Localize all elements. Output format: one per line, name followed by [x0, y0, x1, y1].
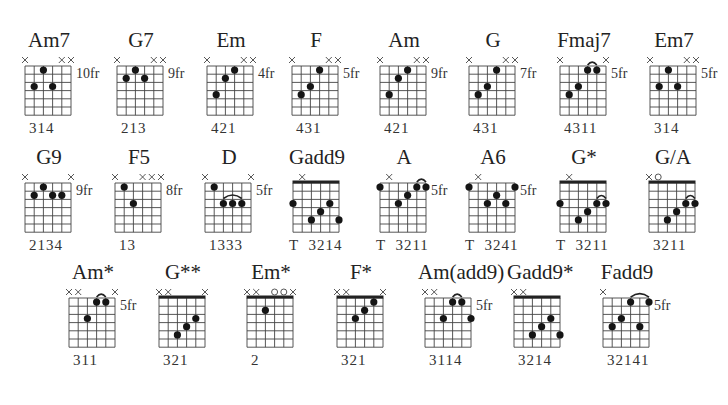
fingering-label: 314 [29, 120, 55, 136]
finger-dot-icon [674, 83, 681, 90]
barre-arc-icon [417, 179, 426, 182]
fingering-label: 213 [121, 120, 147, 136]
fingering-label: 1333 [209, 237, 243, 253]
finger-dot-icon [211, 184, 218, 191]
fretboard-grid [240, 288, 310, 358]
mute-x-icon [165, 289, 171, 295]
nut-bar [293, 181, 340, 184]
finger-dot-icon [664, 216, 671, 223]
finger-dot-icon [404, 192, 411, 199]
chord-name: G7 [110, 28, 172, 52]
chord-diagram: F58fr13 [108, 145, 198, 265]
mute-x-icon [22, 174, 28, 180]
chord-name: G** [152, 260, 214, 284]
mute-x-icon [290, 289, 296, 295]
chord-name: Fmaj7 [553, 28, 615, 52]
mute-x-icon [253, 289, 259, 295]
barre-arc-icon [588, 62, 597, 65]
finger-dot-icon [673, 208, 680, 215]
finger-dot-icon [231, 67, 238, 74]
chord-name: Am* [62, 260, 124, 284]
finger-dot-icon [465, 184, 472, 191]
finger-dot-icon [317, 208, 324, 215]
fret-position-label: 5fr [343, 67, 359, 81]
chord-name: Am(add9) [418, 260, 480, 284]
finger-dot-icon [575, 83, 582, 90]
chord-diagram: Gadd9T 3214 [286, 145, 376, 265]
fret-position-label: 5fr [431, 184, 447, 198]
finger-dot-icon [395, 75, 402, 82]
fret-position-label: 4fr [258, 67, 274, 81]
chord-name: A [373, 145, 435, 169]
finger-dot-icon [484, 200, 491, 207]
mute-x-icon [250, 57, 256, 63]
fret-position-label: 9fr [168, 67, 184, 81]
chord-name: Am7 [18, 28, 80, 52]
fret-position-label: 7fr [520, 67, 536, 81]
mute-x-icon [75, 289, 81, 295]
nut-bar [560, 181, 607, 184]
fingering-label: 321 [163, 352, 189, 368]
finger-dot-icon [422, 184, 429, 191]
nut-bar [247, 296, 294, 299]
chord-diagram: F5fr431 [285, 28, 375, 148]
finger-dot-icon [40, 184, 47, 191]
nut-bar [337, 296, 384, 299]
mute-x-icon [511, 289, 517, 295]
finger-dot-icon [192, 315, 199, 322]
mute-x-icon [66, 289, 72, 295]
finger-dot-icon [618, 315, 625, 322]
finger-dot-icon [449, 299, 456, 306]
mute-x-icon [112, 289, 118, 295]
fret-position-label: 10fr [76, 67, 99, 81]
nut-bar [649, 181, 696, 184]
fingering-label: 314 [654, 120, 680, 136]
fingering-label: 4311 [564, 120, 597, 136]
finger-dot-icon [316, 67, 323, 74]
finger-dot-icon [467, 315, 474, 322]
chord-diagram: Am*5fr311 [62, 260, 152, 380]
mute-x-icon [204, 57, 210, 63]
mute-x-icon [693, 57, 699, 63]
finger-dot-icon [386, 91, 393, 98]
finger-dot-icon [556, 331, 563, 338]
finger-dot-icon [575, 216, 582, 223]
mute-x-icon [289, 57, 295, 63]
mute-x-icon [414, 57, 420, 63]
mute-x-icon [68, 57, 74, 63]
finger-dot-icon [213, 91, 220, 98]
chord-diagram: F*321 [330, 260, 420, 380]
finger-dot-icon [370, 299, 377, 306]
chord-name: F [285, 28, 347, 52]
finger-dot-icon [609, 323, 616, 330]
finger-dot-icon [84, 315, 91, 322]
finger-dot-icon [93, 299, 100, 306]
fretboard-grid [642, 173, 712, 243]
mute-x-icon [248, 174, 254, 180]
mute-x-icon [600, 289, 606, 295]
barre-arc-icon [453, 294, 462, 297]
finger-dot-icon [656, 83, 663, 90]
chord-name: Fadd9 [596, 260, 658, 284]
mute-x-icon [160, 57, 166, 63]
finger-dot-icon [238, 200, 245, 207]
finger-dot-icon [440, 315, 447, 322]
finger-dot-icon [529, 331, 536, 338]
mute-x-icon [244, 289, 250, 295]
mute-x-icon [202, 174, 208, 180]
chord-diagram: G*T 3211 [553, 145, 643, 265]
fret-position-label: 5fr [701, 67, 717, 81]
chord-diagram: D5fr1333 [198, 145, 288, 265]
finger-dot-icon [404, 67, 411, 74]
mute-x-icon [334, 289, 340, 295]
fingering-label: 421 [384, 120, 410, 136]
chord-diagram: G7fr431 [462, 28, 552, 148]
mute-x-icon [422, 289, 428, 295]
fingering-label: 32141 [607, 352, 650, 368]
finger-dot-icon [636, 323, 643, 330]
finger-dot-icon [141, 75, 148, 82]
finger-dot-icon [49, 192, 56, 199]
chord-diagram: Fadd95fr32141 [596, 260, 686, 380]
fret-position-label: 5fr [611, 67, 627, 81]
mute-x-icon [59, 57, 65, 63]
